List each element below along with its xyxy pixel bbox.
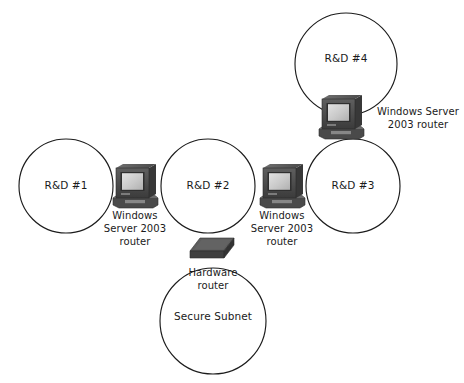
router-label-3-4: Windows Server 2003 router	[374, 105, 462, 131]
hardware-router-icon[interactable]	[190, 238, 234, 258]
subnet-label-rd4: R&D #4	[296, 52, 396, 66]
crt-computer-icon-router-3-4[interactable]	[319, 95, 364, 139]
crt-computer-icon-router-1-2[interactable]	[113, 164, 158, 208]
crt-computer-icon-router-2-3[interactable]	[260, 164, 305, 208]
subnet-label-rd1: R&D #1	[16, 179, 116, 193]
router-label-1-2: Windows Server 2003 router	[100, 209, 170, 248]
router-label-2-3: Windows Server 2003 router	[247, 209, 317, 248]
network-diagram: R&D #1 R&D #2 R&D #3 R&D #4 Secure Subne…	[0, 0, 464, 383]
subnet-label-secure-subnet: Secure Subnet	[153, 310, 273, 324]
subnet-label-rd2: R&D #2	[158, 179, 258, 193]
subnet-label-rd3: R&D #3	[303, 179, 403, 193]
router-label-hardware: Hardware router	[178, 266, 248, 292]
